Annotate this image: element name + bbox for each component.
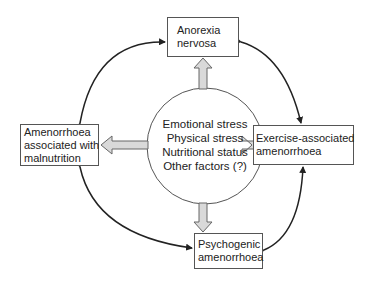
node-anorexia-nervosa: Anorexia nervosa xyxy=(167,17,239,57)
curve-arrow-bottom-right xyxy=(264,167,303,250)
central-factors: Emotional stress Physical stress Nutriti… xyxy=(147,117,263,173)
factor-emotional-stress: Emotional stress xyxy=(147,117,263,131)
block-arrow-left xyxy=(101,136,148,154)
node-exercise-associated-amenorrhoea: Exercise-associated amenorrhoea xyxy=(253,125,354,165)
node-amenorrhoea-malnutrition: Amenorrhoea associated with malnutrition xyxy=(20,124,99,166)
factor-other: Other factors (?) xyxy=(147,159,263,173)
block-arrow-down xyxy=(194,203,212,232)
curve-arrow-top-left xyxy=(80,42,165,123)
node-psychogenic-amenorrhoea: Psychogenic amenorrhoea xyxy=(194,233,263,269)
factor-nutritional-status: Nutritional status xyxy=(147,145,263,159)
factor-physical-stress: Physical stress xyxy=(147,131,263,145)
block-arrow-up xyxy=(194,58,212,89)
